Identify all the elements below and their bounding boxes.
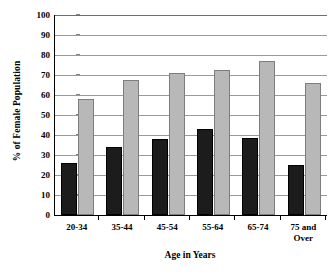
x-axis-category-label-line: 20-34 <box>54 222 99 233</box>
y-axis-tick-label: 80 <box>41 51 50 60</box>
x-axis-category-label: 45-54 <box>145 216 190 246</box>
bars-layer <box>55 15 327 215</box>
x-axis-category-label-line: 35-44 <box>99 222 144 233</box>
y-axis-tick-labels: 0102030405060708090100 <box>26 15 50 215</box>
y-axis-tick-label: 30 <box>41 151 50 160</box>
y-axis-tick-label: 100 <box>37 11 51 20</box>
bar-group <box>282 15 327 215</box>
y-axis-tick-label: 20 <box>41 171 50 180</box>
bar-chart: % of Female Population 01020304050607080… <box>0 0 331 274</box>
bar-dark[interactable] <box>288 165 304 215</box>
bar-light[interactable] <box>169 73 185 215</box>
bar-light[interactable] <box>214 70 230 215</box>
y-axis-title: % of Female Population <box>6 0 28 222</box>
x-axis-category-label-line: 65-74 <box>235 222 280 233</box>
y-axis-tick-label: 10 <box>41 191 50 200</box>
x-axis-tick-mark <box>325 215 326 220</box>
x-axis-category-label: 75 andOver <box>281 216 326 246</box>
x-axis-category-label-line: 45-54 <box>145 222 190 233</box>
y-axis-tick-label: 0 <box>46 211 51 220</box>
y-axis-title-text: % of Female Population <box>12 61 22 162</box>
bar-dark[interactable] <box>197 129 213 215</box>
x-axis-category-labels: 20-3435-4445-5455-6465-7475 andOver <box>54 216 326 246</box>
bar-group <box>146 15 191 215</box>
bar-light[interactable] <box>78 99 94 215</box>
x-axis-category-label: 35-44 <box>99 216 144 246</box>
x-axis-title: Age in Years <box>54 250 326 260</box>
x-axis-category-label: 20-34 <box>54 216 99 246</box>
x-axis-category-label: 65-74 <box>235 216 280 246</box>
bar-group <box>55 15 100 215</box>
bar-light[interactable] <box>123 80 139 215</box>
y-axis-tick-label: 70 <box>41 71 50 80</box>
y-axis-tick-label: 50 <box>41 111 50 120</box>
bar-group <box>100 15 145 215</box>
bar-dark[interactable] <box>152 139 168 215</box>
x-axis-category-label-line: 75 and <box>281 222 326 233</box>
x-axis-category-label-line: 55-64 <box>190 222 235 233</box>
bar-dark[interactable] <box>106 147 122 215</box>
bar-light[interactable] <box>305 83 321 215</box>
bar-dark[interactable] <box>61 163 77 215</box>
bar-group <box>191 15 236 215</box>
x-axis-category-label: 55-64 <box>190 216 235 246</box>
y-axis-tick-label: 90 <box>41 31 50 40</box>
bar-light[interactable] <box>259 61 275 215</box>
bar-dark[interactable] <box>242 138 258 215</box>
plot-area <box>54 15 327 216</box>
y-axis-tick-label: 60 <box>41 91 50 100</box>
y-axis-tick-label: 40 <box>41 131 50 140</box>
bar-group <box>236 15 281 215</box>
x-axis-category-label-line: Over <box>281 233 326 244</box>
